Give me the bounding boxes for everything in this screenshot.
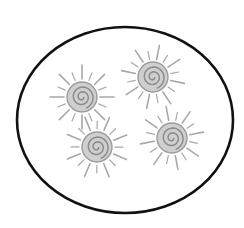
sun-ray bbox=[175, 156, 178, 170]
sun-ray bbox=[167, 156, 169, 164]
sun-ray bbox=[78, 160, 84, 166]
sun-ray bbox=[171, 81, 185, 84]
sun-ray bbox=[114, 154, 127, 159]
sun-ray bbox=[126, 87, 138, 95]
sun-ray bbox=[146, 120, 158, 128]
sun-ray bbox=[131, 62, 138, 66]
sun-ray bbox=[182, 112, 190, 124]
sun-ray bbox=[163, 92, 171, 104]
sun-ray bbox=[110, 160, 116, 166]
sun-ray bbox=[89, 114, 92, 121]
sun-ray bbox=[148, 51, 150, 59]
sun-ray bbox=[187, 124, 194, 128]
sun-group bbox=[50, 46, 203, 177]
sun-ray bbox=[99, 87, 106, 90]
sun-ray bbox=[58, 104, 65, 107]
sun-ray bbox=[72, 114, 75, 121]
sun-ray bbox=[104, 164, 109, 177]
sun-ray bbox=[147, 133, 155, 135]
sun-ray bbox=[58, 87, 65, 90]
sun-ray bbox=[85, 117, 90, 130]
sun-ray bbox=[110, 129, 116, 135]
sun-ray bbox=[154, 153, 162, 165]
sun-ray bbox=[95, 74, 105, 84]
sun-ray bbox=[72, 73, 75, 80]
sun-ray bbox=[166, 107, 169, 121]
sun-bottom-right-icon bbox=[141, 107, 204, 170]
sun-ray bbox=[127, 80, 135, 82]
sun-top-right-icon bbox=[122, 46, 185, 109]
sun-ray bbox=[190, 132, 204, 135]
sun-ray bbox=[156, 95, 158, 103]
sun-ray bbox=[182, 153, 186, 160]
sun-ray bbox=[171, 72, 179, 74]
sun-ray bbox=[168, 87, 175, 91]
sun-top-left-icon bbox=[50, 65, 114, 129]
sun-ray bbox=[122, 71, 136, 74]
oval-outline bbox=[17, 27, 233, 213]
sun-ray bbox=[150, 148, 157, 152]
sun-ray bbox=[158, 116, 162, 123]
sun-ray bbox=[114, 135, 127, 140]
sun-ray bbox=[85, 164, 90, 177]
sun-ray bbox=[99, 104, 106, 107]
sun-ray bbox=[89, 73, 92, 80]
sun-ray bbox=[141, 141, 155, 144]
sun-ray bbox=[59, 110, 69, 120]
sun-ray bbox=[67, 154, 80, 159]
sun-ray bbox=[176, 113, 178, 121]
sun-ray bbox=[168, 59, 180, 67]
sun-bottom-left-icon bbox=[67, 117, 126, 176]
sun-ray bbox=[59, 74, 69, 84]
sun-ray bbox=[135, 50, 143, 62]
sun-ray bbox=[163, 55, 167, 62]
sun-ray bbox=[157, 46, 160, 60]
sun-ray bbox=[95, 110, 105, 120]
sun-ray bbox=[190, 142, 198, 144]
sun-ray bbox=[187, 148, 199, 156]
sun-ray bbox=[147, 95, 150, 109]
sun-ray bbox=[68, 135, 81, 140]
sun-ray bbox=[138, 92, 142, 99]
illustration bbox=[0, 0, 244, 228]
